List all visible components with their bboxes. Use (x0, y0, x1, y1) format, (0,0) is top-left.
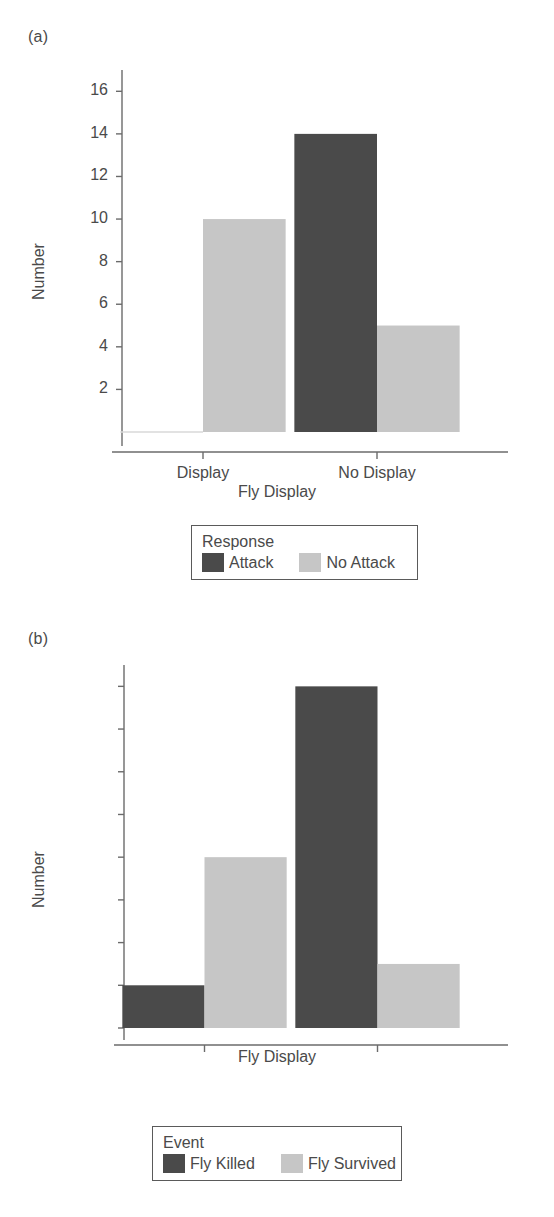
legend-swatch-fly-killed (163, 1154, 185, 1173)
legend-title-a: Response (202, 532, 407, 551)
chart-panel-b: (b) Number 0246810121416 DisplayNo Displ… (0, 608, 554, 1217)
plot-area-a (0, 0, 554, 500)
x-tick-label: Display (177, 464, 229, 482)
legend-entry-fly-survived: Fly Survived (281, 1154, 396, 1173)
bar (295, 686, 377, 1028)
legend-b: Event Fly Killed Fly Survived (152, 1126, 402, 1181)
legend-swatch-no-attack (299, 553, 321, 572)
bar (378, 964, 460, 1028)
y-tick-label: 16 (68, 81, 108, 99)
x-tick-label: No Display (338, 464, 415, 482)
chart-panel-a: (a) Number 246810121416 DisplayNo Displa… (0, 0, 554, 608)
legend-entry-attack: Attack (202, 553, 273, 572)
legend-swatch-fly-survived (281, 1154, 303, 1173)
bar (205, 857, 287, 1028)
legend-title-b: Event (163, 1133, 391, 1152)
y-tick-label: 10 (68, 209, 108, 227)
legend-label-attack: Attack (229, 553, 273, 572)
bar (203, 219, 286, 432)
bar (294, 134, 377, 432)
bar (122, 985, 204, 1028)
legend-label-no-attack: No Attack (326, 553, 394, 572)
legend-entry-no-attack: No Attack (299, 553, 394, 572)
y-tick-label: 14 (68, 124, 108, 142)
legend-label-fly-survived: Fly Survived (308, 1154, 396, 1173)
x-axis-title-b: Fly Display (0, 1048, 554, 1066)
plot-area-b (0, 608, 554, 1078)
y-tick-label: 2 (68, 379, 108, 397)
legend-entry-fly-killed: Fly Killed (163, 1154, 255, 1173)
bar (377, 326, 460, 432)
legend-a: Response Attack No Attack (191, 525, 418, 580)
legend-swatch-attack (202, 553, 224, 572)
x-axis-title-a: Fly Display (0, 483, 554, 501)
y-tick-label: 4 (68, 337, 108, 355)
y-tick-label: 12 (68, 166, 108, 184)
y-tick-label: 8 (68, 252, 108, 270)
legend-label-fly-killed: Fly Killed (190, 1154, 255, 1173)
y-tick-label: 6 (68, 294, 108, 312)
